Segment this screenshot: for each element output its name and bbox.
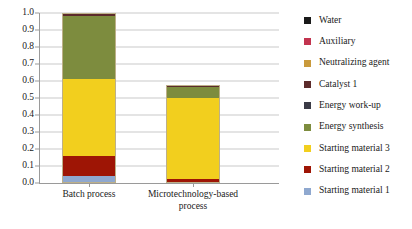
legend-label: Neutralizing agent — [319, 58, 389, 68]
legend-swatch-icon — [304, 60, 311, 67]
bar-segment[interactable] — [62, 176, 116, 183]
y-axis-tick-label: 0.8 — [22, 42, 34, 52]
x-axis-tickmark — [193, 183, 194, 187]
y-axis-tick-label: 0.3 — [22, 127, 34, 137]
y-axis-tick-label: 0.6 — [22, 76, 34, 86]
legend-item[interactable]: Energy synthesis — [304, 116, 412, 137]
category-label-line: Batch process — [29, 188, 149, 200]
y-axis-tick-label: 0.2 — [22, 144, 34, 154]
bar[interactable] — [62, 13, 116, 183]
legend-label: Auxiliary — [319, 37, 355, 47]
x-axis-tickmark — [89, 183, 90, 187]
legend-label: Starting material 3 — [319, 144, 390, 154]
x-axis-category-label: Microtechnology-basedprocess — [133, 188, 253, 212]
stacked-bar-chart: 1.00.90.80.70.60.50.40.30.20.10.0 Batch … — [0, 0, 412, 229]
chart-legend: WaterAuxiliaryNeutralizing agentCatalyst… — [304, 10, 412, 202]
bar[interactable] — [166, 85, 220, 183]
legend-swatch-icon — [304, 188, 311, 195]
y-axis-tick-label: 1.0 — [22, 8, 34, 18]
category-label-line: Microtechnology-based — [133, 188, 253, 200]
legend-item[interactable]: Auxiliary — [304, 31, 412, 52]
legend-swatch-icon — [304, 145, 311, 152]
legend-label: Water — [319, 16, 341, 26]
bar-segment[interactable] — [62, 156, 116, 176]
legend-swatch-icon — [304, 166, 311, 173]
legend-item[interactable]: Neutralizing agent — [304, 53, 412, 74]
legend-label: Catalyst 1 — [319, 80, 357, 90]
legend-label: Energy synthesis — [319, 122, 383, 132]
bar-segment[interactable] — [166, 98, 220, 179]
y-axis-tick-label: 0.4 — [22, 110, 34, 120]
bar-segment[interactable] — [62, 79, 116, 156]
y-axis-tick-label: 0.7 — [22, 59, 34, 69]
x-axis-category-label: Batch process — [29, 188, 149, 200]
bar-segment[interactable] — [166, 85, 220, 87]
legend-swatch-icon — [304, 38, 311, 45]
legend-item[interactable]: Starting material 3 — [304, 138, 412, 159]
bar-segment[interactable] — [166, 87, 220, 98]
legend-label: Starting material 1 — [319, 186, 390, 196]
legend-item[interactable]: Starting material 2 — [304, 159, 412, 180]
legend-label: Starting material 2 — [319, 165, 390, 175]
legend-swatch-icon — [304, 17, 311, 24]
legend-item[interactable]: Water — [304, 10, 412, 31]
y-axis-tick-label: 0.0 — [22, 178, 34, 188]
bar-segment[interactable] — [62, 16, 116, 80]
y-axis-tick-label: 0.1 — [22, 161, 34, 171]
legend-item[interactable]: Starting material 1 — [304, 180, 412, 201]
legend-swatch-icon — [304, 102, 311, 109]
y-axis-line — [39, 13, 40, 183]
legend-label: Energy work-up — [319, 101, 381, 111]
legend-swatch-icon — [304, 124, 311, 131]
legend-item[interactable]: Catalyst 1 — [304, 74, 412, 95]
category-label-line: process — [133, 200, 253, 212]
y-axis-tick-label: 0.5 — [22, 93, 34, 103]
bar-segment[interactable] — [62, 13, 116, 16]
y-axis-tick-label: 0.9 — [22, 25, 34, 35]
x-axis-line — [39, 183, 279, 184]
plot-area: 1.00.90.80.70.60.50.40.30.20.10.0 Batch … — [0, 0, 285, 229]
legend-item[interactable]: Energy work-up — [304, 95, 412, 116]
legend-swatch-icon — [304, 81, 311, 88]
